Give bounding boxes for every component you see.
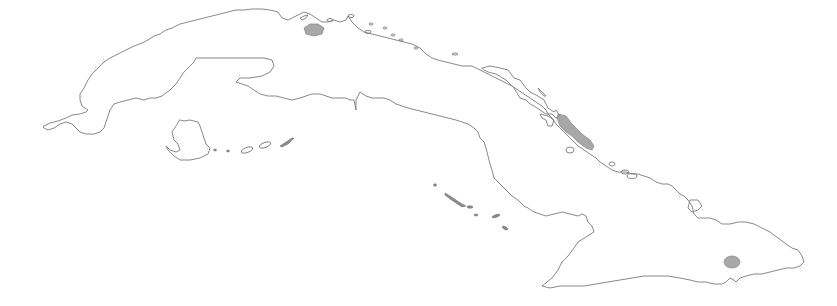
north-cay (688, 200, 702, 212)
north-cay (540, 114, 554, 126)
isla-de-la-juventud (166, 120, 210, 160)
north-cay (538, 88, 546, 96)
cuba-map (0, 0, 837, 306)
cay-islet (227, 150, 230, 152)
north-cay (365, 31, 371, 34)
highlighted-region-west (304, 24, 324, 36)
cay-islet (502, 225, 508, 230)
cay-islet (280, 138, 294, 147)
north-cay (383, 27, 387, 29)
north-cay (327, 19, 333, 22)
north-cay (369, 23, 373, 25)
north-cay (452, 53, 458, 55)
north-cay (566, 147, 574, 153)
cay-islet (474, 214, 478, 216)
main-island-coastline (44, 9, 804, 288)
north-cay (609, 162, 615, 166)
cay-islet (214, 149, 217, 151)
cay-islet (434, 184, 437, 186)
cay-islet (259, 141, 272, 150)
north-cay (391, 34, 395, 36)
north-cay (300, 15, 308, 20)
north-cay (399, 39, 403, 41)
north-cay (414, 47, 418, 49)
cay-islet (241, 146, 254, 155)
cay-islet (492, 213, 500, 218)
cay-chain (445, 193, 466, 207)
north-cay (348, 15, 354, 18)
highlighted-region-central (557, 114, 594, 150)
cay-islet (467, 206, 473, 208)
highlighted-region-east (724, 256, 740, 268)
